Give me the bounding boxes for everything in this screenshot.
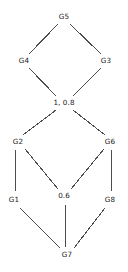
- edge-m1-g2: [23, 110, 56, 135]
- node-label-g1: G1: [8, 196, 20, 203]
- edge-g1-g7: [20, 208, 60, 248]
- edge-g6-m06: [71, 149, 104, 189]
- edge-layer: [0, 0, 128, 272]
- node-label-m1: 1, 0.8: [52, 99, 75, 106]
- node-label-g2: G2: [12, 138, 24, 145]
- node-label-g4: G4: [18, 57, 30, 64]
- node-label-g7: G7: [61, 251, 73, 258]
- edge-g2-m06: [25, 149, 58, 189]
- graph-diagram: G5G4G31, 0.8G2G6G10.6G8G7: [0, 0, 128, 272]
- node-label-g8: G8: [104, 196, 116, 203]
- node-label-g6: G6: [104, 138, 116, 145]
- node-label-m06: 0.6: [57, 192, 71, 199]
- edge-g5-g3: [70, 24, 101, 54]
- edge-g6-g8: [111, 150, 112, 192]
- edge-m1-g6: [73, 110, 105, 135]
- edge-m06-g7: [65, 204, 66, 247]
- node-label-g3: G3: [100, 57, 112, 64]
- edge-g4-m1: [29, 68, 56, 96]
- edge-g3-m1: [73, 68, 101, 96]
- edge-g8-g7: [74, 208, 105, 248]
- edge-g2-g1: [15, 150, 16, 192]
- node-label-g5: G5: [58, 13, 70, 20]
- edge-g5-g4: [29, 24, 58, 54]
